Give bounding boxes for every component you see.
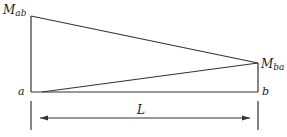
label-moment-ba: Mba (260, 57, 284, 72)
label-node-b: b (262, 85, 269, 98)
moment-diagram: Mab Mba a b L (0, 0, 287, 137)
lower-diagonal-line (42, 63, 258, 92)
label-span-length: L (136, 103, 145, 117)
upper-sloping-line (31, 16, 258, 63)
label-moment-ab: Mab (2, 3, 27, 18)
arrowhead-right-icon (242, 116, 250, 121)
label-node-a: a (18, 85, 25, 98)
arrowhead-left-icon (40, 116, 48, 121)
